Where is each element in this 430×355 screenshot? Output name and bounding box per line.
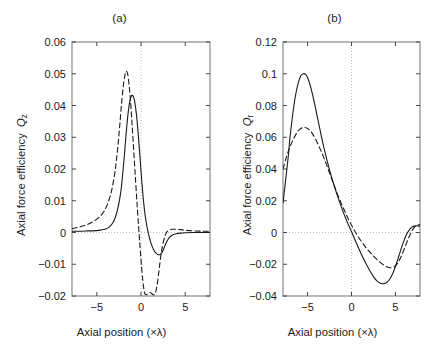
y-axis-tick-label: 0.06 [256, 131, 277, 143]
y-axis-tick-label: 0.04 [256, 163, 277, 175]
figure-container: (a) Axial force efficiency Qz −0.02−0.01… [0, 0, 430, 355]
y-axis-tick-label: 0.1 [262, 68, 277, 80]
panel-b-x-axis-label: Axial position (×λ) [215, 326, 430, 338]
y-axis-tick-label: −0.04 [249, 290, 277, 302]
y-axis-tick-label: 0.08 [256, 100, 277, 112]
data-series-dashed [72, 71, 210, 295]
x-axis-tick-label: 0 [138, 301, 144, 313]
y-axis-tick-label: 0.05 [45, 68, 66, 80]
chart-panel-a: (a) Axial force efficiency Qz −0.02−0.01… [0, 0, 215, 355]
x-axis-tick-label: 0 [348, 301, 354, 313]
y-axis-tick-label: −0.02 [38, 290, 66, 302]
y-axis-tick-label: 0.04 [45, 100, 66, 112]
x-axis-tick-label: −5 [90, 301, 103, 313]
y-axis-tick-label: −0.02 [249, 258, 277, 270]
panel-a-x-axis-label: Axial position (×λ) [0, 326, 215, 338]
y-axis-tick-label: 0.02 [45, 163, 66, 175]
y-axis-tick-label: 0.02 [256, 195, 277, 207]
y-axis-tick-label: 0.01 [45, 195, 66, 207]
panel-a-plot-area: −0.02−0.0100.010.020.030.040.050.06−505 [0, 0, 215, 320]
x-axis-tick-label: 5 [182, 301, 188, 313]
y-axis-tick-label: −0.01 [38, 258, 66, 270]
y-axis-tick-label: 0 [271, 227, 277, 239]
y-axis-tick-label: 0.12 [256, 36, 277, 48]
y-axis-tick-label: 0.06 [45, 36, 66, 48]
x-axis-tick-label: −5 [301, 301, 314, 313]
chart-panel-b: (b) Axial force efficiency Qr −0.04−0.02… [215, 0, 430, 355]
series-group [72, 71, 210, 295]
y-axis-tick-label: 0 [60, 227, 66, 239]
panel-b-plot-area: −0.04−0.0200.020.040.060.080.10.12−505 [215, 0, 430, 320]
y-axis-tick-label: 0.03 [45, 131, 66, 143]
x-axis-tick-label: 5 [392, 301, 398, 313]
